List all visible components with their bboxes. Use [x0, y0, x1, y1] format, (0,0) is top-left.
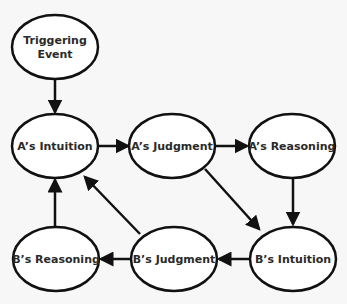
node-label: A’s Reasoning	[249, 140, 336, 153]
arrow-b-judgment-to-a-intuition	[85, 177, 140, 234]
nodes-layer: TriggeringEventA’s IntuitionA’s Judgment…	[12, 15, 336, 291]
node-b-judgment: B’s Judgment	[131, 227, 217, 291]
node-b-reasoning: B’s Reasoning	[12, 227, 100, 291]
node-a-intuition: A’s Intuition	[12, 114, 98, 178]
node-label: B’s Intuition	[255, 253, 331, 266]
node-b-intuition: B’s Intuition	[250, 227, 336, 291]
node-a-judgment: A’s Judgment	[129, 114, 215, 178]
arrow-a-judgment-to-b-intuition	[205, 169, 259, 229]
diagram-canvas: TriggeringEventA’s IntuitionA’s Judgment…	[0, 0, 347, 304]
node-label: A’s Judgment	[131, 140, 213, 153]
node-label: A’s Intuition	[17, 140, 92, 153]
flow-diagram: TriggeringEventA’s IntuitionA’s Judgment…	[0, 0, 347, 304]
node-label: B’s Judgment	[133, 253, 216, 266]
node-a-reasoning: A’s Reasoning	[249, 114, 336, 178]
node-trigger: TriggeringEvent	[12, 15, 98, 79]
node-label: Event	[37, 48, 72, 61]
node-label: Triggering	[23, 34, 87, 47]
node-ellipse	[12, 15, 98, 79]
node-label: B’s Reasoning	[12, 253, 100, 266]
